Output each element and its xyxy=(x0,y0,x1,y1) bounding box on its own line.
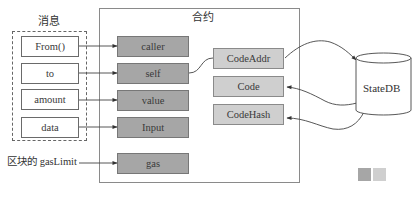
statedb-label: StateDB xyxy=(363,82,400,94)
light-swatch xyxy=(373,168,386,181)
connector-layer xyxy=(0,0,413,197)
arrow-statedb-to-code xyxy=(287,87,357,105)
connector-self-codeaddr xyxy=(189,58,213,73)
dark-swatch xyxy=(358,168,371,181)
arrow-statedb-to-codehash xyxy=(287,112,364,129)
arrow-codeaddr-to-statedb xyxy=(285,41,356,60)
